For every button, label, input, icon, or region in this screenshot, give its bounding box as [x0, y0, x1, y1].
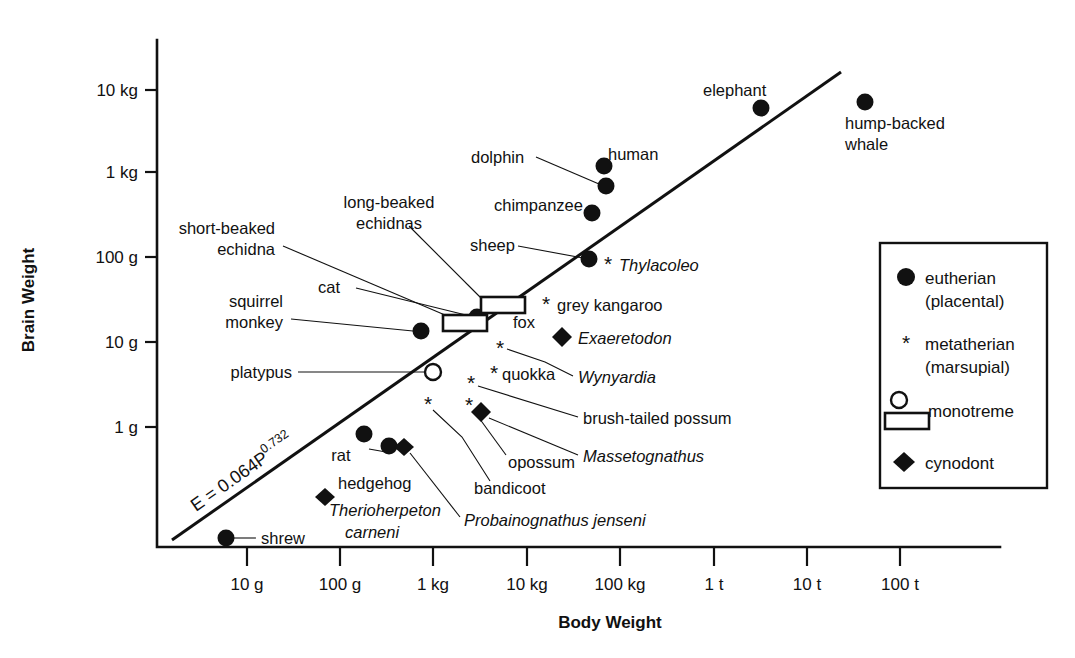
marker-thylacoleo-asterisk[interactable]: * — [604, 252, 612, 275]
legend-metatherian-label-line1: metatherian — [925, 335, 1015, 354]
legend-metatherian-icon: * — [902, 331, 910, 354]
marker-wynyardia-asterisk[interactable]: * — [496, 336, 504, 359]
plot-area: 10 kg 1 kg 100 g 10 g 1 g 10 g 100 g 1 k… — [0, 0, 1075, 658]
legend-monotreme-label: monotreme — [928, 402, 1014, 421]
x-tick-label-100kg: 100 kg — [594, 575, 645, 594]
label-wynyardia: Wynyardia — [578, 368, 656, 386]
x-tick-label-100t: 100 t — [881, 575, 919, 594]
point-massetognathus[interactable] — [471, 402, 491, 422]
y-tick-label-1kg: 1 kg — [106, 163, 138, 182]
legend-metatherian-label-line2: (marsupial) — [925, 358, 1010, 377]
equation-exponent: 0.732 — [258, 427, 292, 456]
label-rat: rat — [331, 446, 351, 464]
y-tick-label-10g: 10 g — [105, 333, 138, 352]
label-hedgehog: hedgehog — [338, 474, 411, 492]
point-hedgehog[interactable] — [381, 438, 398, 455]
point-squirrel-monkey[interactable] — [413, 323, 430, 340]
marker-quokka-asterisk[interactable]: * — [490, 361, 498, 384]
label-cat: cat — [318, 278, 340, 296]
point-short-beaked-echidna[interactable] — [443, 315, 487, 331]
label-therio-line1: Therioherpeton — [329, 501, 441, 519]
legend-monotreme-circle-icon — [891, 392, 907, 408]
point-shrew[interactable] — [218, 530, 235, 547]
label-probainognathus: Probainognathus jenseni — [464, 511, 647, 529]
marker-brush-possum-asterisk[interactable]: * — [467, 371, 475, 394]
legend-monotreme-rect-icon — [885, 413, 929, 429]
x-tick-label-100g: 100 g — [319, 575, 362, 594]
legend-eutherian-label-line1: eutherian — [925, 269, 996, 288]
label-chimpanzee: chimpanzee — [494, 196, 583, 214]
label-massetognathus: Massetognathus — [583, 447, 704, 465]
legend-cynodont-icon — [893, 452, 915, 472]
label-grey-kangaroo: grey kangaroo — [557, 296, 663, 314]
label-brush-possum: brush-tailed possum — [583, 409, 732, 427]
y-tick-label-10kg: 10 kg — [96, 81, 138, 100]
point-labels: elephant hump-backed whale human dolphin… — [179, 81, 945, 547]
x-tick-label-10g: 10 g — [230, 575, 263, 594]
x-tick-label-10t: 10 t — [793, 575, 822, 594]
point-hump-backed-whale[interactable] — [857, 94, 874, 111]
y-tick-labels: 10 kg 1 kg 100 g 10 g 1 g — [95, 81, 138, 437]
legend-eutherian-icon — [897, 268, 915, 286]
x-tickmarks — [247, 547, 900, 566]
point-exaeretodon[interactable] — [552, 327, 572, 347]
point-sheep[interactable] — [581, 251, 598, 268]
equation-base: E = 0.064P — [187, 448, 272, 516]
y-tickmarks — [145, 90, 157, 427]
label-long-echidna-line1: long-beaked — [344, 193, 435, 211]
label-thylacoleo: Thylacoleo — [619, 256, 699, 274]
label-squirrel-line1: squirrel — [229, 292, 283, 310]
point-chimpanzee[interactable] — [584, 205, 601, 222]
label-sheep: sheep — [470, 236, 515, 254]
point-elephant[interactable] — [753, 100, 770, 117]
marker-grey-kangaroo-asterisk[interactable]: * — [542, 292, 550, 315]
label-bandicoot: bandicoot — [474, 479, 546, 497]
label-human: human — [608, 145, 658, 163]
point-dolphin[interactable] — [598, 178, 615, 195]
regression-equation: E = 0.064P 0.732 — [185, 427, 297, 516]
point-long-beaked-echidnas[interactable] — [481, 297, 525, 313]
legend-eutherian-label-line2: (placental) — [925, 292, 1004, 311]
label-long-echidna-line2: echidnas — [356, 214, 422, 232]
point-rat[interactable] — [356, 426, 373, 443]
label-short-echidna-line1: short-beaked — [179, 219, 275, 237]
label-quokka: quokka — [502, 365, 556, 383]
label-whale-line1: hump-backed — [845, 114, 945, 132]
label-opossum: opossum — [508, 453, 575, 471]
y-axis-title: Brain Weight — [19, 247, 38, 352]
y-tick-label-1g: 1 g — [114, 418, 138, 437]
label-short-echidna-line2: echidna — [217, 240, 276, 258]
point-probainognathus[interactable] — [394, 438, 414, 456]
x-tick-label-1kg: 1 kg — [417, 575, 449, 594]
label-platypus: platypus — [231, 363, 292, 381]
y-tick-label-100g: 100 g — [95, 248, 138, 267]
label-shrew: shrew — [261, 529, 305, 547]
legend-cynodont-label: cynodont — [925, 454, 994, 473]
marker-opossum-asterisk[interactable]: * — [465, 393, 473, 416]
label-therio-line2: carneni — [345, 523, 400, 541]
label-fox: fox — [513, 313, 536, 331]
brain-body-weight-scatter-chart: 10 kg 1 kg 100 g 10 g 1 g 10 g 100 g 1 k… — [0, 0, 1075, 658]
label-dolphin: dolphin — [471, 148, 524, 166]
label-elephant: elephant — [703, 81, 767, 99]
point-platypus[interactable] — [425, 364, 441, 380]
x-tick-labels: 10 g 100 g 1 kg 10 kg 100 kg 1 t 10 t 10… — [230, 575, 919, 594]
x-tick-label-1t: 1 t — [705, 575, 724, 594]
x-tick-label-10kg: 10 kg — [506, 575, 548, 594]
label-exaeretodon: Exaeretodon — [578, 329, 672, 347]
label-whale-line2: whale — [844, 135, 888, 153]
legend: eutherian (placental) * metatherian (mar… — [880, 243, 1047, 488]
x-axis-title: Body Weight — [558, 613, 662, 632]
marker-bandicoot-asterisk[interactable]: * — [424, 392, 432, 415]
label-squirrel-line2: monkey — [225, 313, 284, 331]
